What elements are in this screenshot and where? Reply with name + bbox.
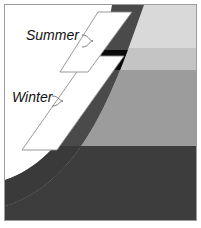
label-winter: Winter [12, 89, 54, 105]
label-summer: Summer [26, 27, 80, 43]
cross-section-diagram: Summer Winter [0, 0, 201, 228]
figure-container: Summer Winter [0, 0, 201, 228]
